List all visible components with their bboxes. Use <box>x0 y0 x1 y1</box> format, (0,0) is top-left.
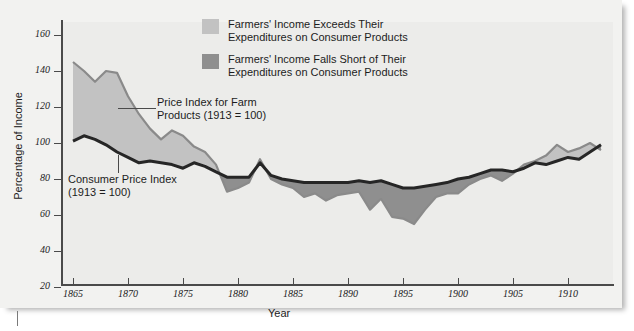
annotation-cpi-line1: Consumer Price Index <box>68 173 177 185</box>
annotation-farm-line2: Products (1913 = 100) <box>157 109 266 121</box>
y-axis-title: Percentage of Income <box>12 76 24 216</box>
legend-text-exceeds: Farmers' Income Exceeds Their Expenditur… <box>228 18 408 44</box>
legend-falls-short-line2: Expenditures on Consumer Products <box>228 66 408 78</box>
legend-swatch-exceeds-icon <box>202 19 219 34</box>
legend-exceeds-line2: Expenditures on Consumer Products <box>228 31 408 43</box>
annotation-farm-line1: Price Index for Farm <box>157 96 257 108</box>
legend-swatch-falls-short-icon <box>202 54 219 69</box>
annotation-farm-index: Price Index for Farm Products (1913 = 10… <box>157 96 266 122</box>
legend-item-falls-short: Farmers' Income Falls Short of Their Exp… <box>202 53 408 79</box>
legend-falls-short-line1: Farmers' Income Falls Short of Their <box>228 53 406 65</box>
leader-line-cpi <box>118 155 119 173</box>
annotation-cpi-index: Consumer Price Index (1913 = 100) <box>68 173 177 199</box>
legend-exceeds-line1: Farmers' Income Exceeds Their <box>228 18 383 30</box>
figure-root: 16014012010080604020 1865187018751880188… <box>0 0 634 331</box>
annotation-cpi-line2: (1913 = 100) <box>68 186 131 198</box>
x-axis-title: Year <box>268 307 290 319</box>
legend: Farmers' Income Exceeds Their Expenditur… <box>202 18 408 88</box>
leader-line-farm <box>118 108 156 109</box>
legend-item-exceeds: Farmers' Income Exceeds Their Expenditur… <box>202 18 408 44</box>
legend-text-falls-short: Farmers' Income Falls Short of Their Exp… <box>228 53 408 79</box>
page-margin-mark <box>17 311 18 326</box>
